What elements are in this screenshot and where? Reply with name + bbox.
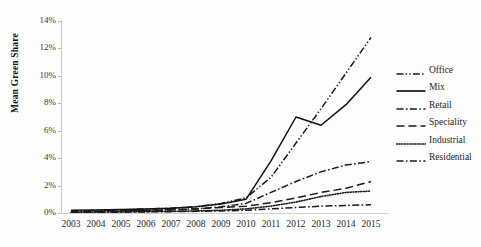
legend-item-residential[interactable]: Residential <box>396 149 481 167</box>
chart-legend: OfficeMixRetailSpecialityIndustrialResid… <box>396 61 481 166</box>
legend-item-industrial[interactable]: Industrial <box>396 131 481 149</box>
chart-figure: Mean Green Share 0%2%4%6%8%10%12%14% 200… <box>0 0 481 247</box>
series-line <box>71 77 371 210</box>
series-lines <box>71 37 371 212</box>
legend-line-swatch <box>396 135 426 145</box>
legend-item-label: Industrial <box>429 135 465 145</box>
legend-item-label: Mix <box>429 82 445 92</box>
legend-item-label: Office <box>429 65 453 75</box>
legend-item-label: Speciality <box>429 117 467 127</box>
legend-line-swatch <box>396 65 426 75</box>
legend-line-swatch <box>396 152 426 162</box>
legend-item-mix[interactable]: Mix <box>396 79 481 97</box>
series-line <box>71 181 371 211</box>
legend-item-retail[interactable]: Retail <box>396 96 481 114</box>
legend-line-swatch <box>396 117 426 127</box>
legend-line-swatch <box>396 100 426 110</box>
legend-item-speciality[interactable]: Speciality <box>396 114 481 132</box>
legend-item-label: Residential <box>429 152 472 162</box>
x-axis-tick-label: 2015 <box>356 219 386 229</box>
series-line <box>71 37 371 210</box>
x-axis-tick-labels: 2003200420052006200720082009201020112012… <box>0 219 481 237</box>
legend-line-swatch <box>396 82 426 92</box>
legend-item-office[interactable]: Office <box>396 61 481 79</box>
legend-item-label: Retail <box>429 100 452 110</box>
